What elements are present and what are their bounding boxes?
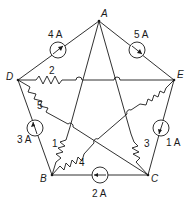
- label-r5: 5: [37, 100, 43, 111]
- label-1a: 1 A: [166, 137, 181, 148]
- edge-e-c: [148, 80, 174, 175]
- edge-b-c: [52, 167, 148, 183]
- label-r3: 3: [144, 138, 150, 149]
- label-r2: 2: [49, 65, 55, 76]
- node-label-b: B: [40, 173, 47, 184]
- label-5a: 5 A: [134, 29, 149, 40]
- node-label-d: D: [6, 71, 13, 82]
- node-b: [51, 174, 54, 177]
- node-d: [17, 79, 20, 82]
- label-3a: 3 A: [17, 134, 32, 145]
- label-2a: 2 A: [92, 188, 107, 199]
- node-label-c: C: [151, 173, 159, 184]
- node-e: [173, 79, 176, 82]
- label-r4: 4: [79, 157, 85, 168]
- node-label-a: A: [100, 8, 108, 19]
- edge-d-b: [18, 80, 52, 175]
- circuit-diagram: A D E B C 4 A 5 A 3 A 1 A 2 A 2 5 1 4 3: [0, 0, 191, 203]
- node-c: [147, 174, 150, 177]
- label-r1: 1: [52, 138, 58, 149]
- label-4a: 4 A: [48, 29, 63, 40]
- node-label-e: E: [177, 69, 184, 80]
- resistor-2: [18, 76, 174, 84]
- node-a: [98, 20, 101, 23]
